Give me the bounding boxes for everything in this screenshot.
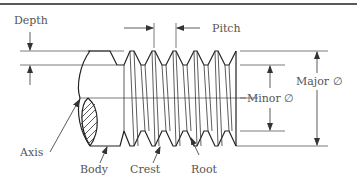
thread [117,51,236,146]
pitch-label: Pitch [212,22,241,35]
thread-diagram: Depth Pitch Minor ∅ Major ∅ Axis Body Cr… [0,0,357,186]
body-label: Body [80,163,109,176]
major-diameter-dimension: Major ∅ [296,52,343,145]
major-label: Major ∅ [296,75,343,88]
leaders: Axis Body Crest Root [19,100,218,176]
root-label: Root [191,163,218,176]
depth-dimension: Depth [14,14,48,85]
minor-diameter-dimension: Minor ∅ [240,66,294,130]
pitch-dimension: Pitch [124,22,241,48]
axis-label: Axis [19,146,44,159]
crest-label: Crest [130,163,161,176]
minor-label: Minor ∅ [247,92,294,105]
depth-label: Depth [14,14,48,27]
